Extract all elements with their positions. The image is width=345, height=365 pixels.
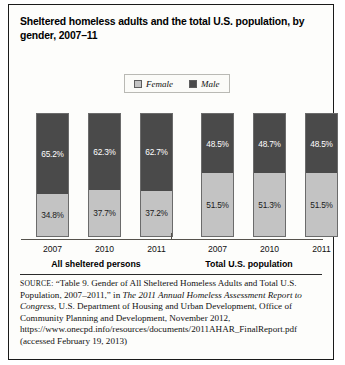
bar-total-u-s-population-2011: 48.5%51.5% (305, 113, 338, 237)
bar-value-male: 62.3% (93, 147, 116, 157)
x-axis-label-2011-left: 2011 (137, 244, 177, 254)
bar-value-female: 37.2% (145, 208, 168, 218)
bar-value-female: 51.3% (258, 200, 281, 210)
source-note: SOURCE: “Table 9. Gender of All Sheltere… (20, 278, 326, 348)
bar-segment-male: 65.2% (37, 114, 68, 194)
bar-all-sheltered-persons-2010: 62.3%37.7% (88, 113, 121, 237)
bar-value-female: 37.7% (93, 208, 116, 218)
bar-total-u-s-population-2010: 48.7%51.3% (253, 113, 286, 237)
bar-value-male: 48.5% (310, 139, 333, 149)
legend-swatch-male-icon (189, 80, 197, 88)
group-separator-tick (171, 233, 172, 240)
plot-area: 65.2%34.8%62.3%37.7%62.7%37.2%48.5%51.5%… (21, 109, 323, 240)
bar-value-male: 48.5% (206, 139, 229, 149)
bar-segment-male: 48.5% (306, 114, 337, 173)
bar-value-male: 48.7% (258, 139, 281, 149)
bar-segment-female: 51.5% (202, 173, 233, 236)
legend-label-male: Male (201, 79, 220, 89)
bar-segment-female: 37.2% (141, 191, 172, 236)
source-label: SOURCE: (20, 279, 53, 288)
source-text-part2: , U.S. Department of Housing and Urban D… (20, 301, 297, 346)
group-label-total-us-population: Total U.S. population (169, 259, 329, 269)
bar-segment-male: 62.7% (141, 114, 172, 191)
bar-all-sheltered-persons-2011: 62.7%37.2% (140, 113, 173, 237)
x-axis-line (21, 239, 323, 240)
group-label-all-sheltered-persons: All sheltered persons (16, 259, 176, 269)
bar-all-sheltered-persons-2007: 65.2%34.8% (36, 113, 69, 237)
x-axis-label-2010-right: 2010 (250, 244, 290, 254)
bar-segment-female: 34.8% (37, 194, 68, 236)
bar-segment-female: 37.7% (89, 190, 120, 236)
bar-segment-male: 48.7% (254, 114, 285, 173)
x-axis-label-2007-left: 2007 (33, 244, 73, 254)
bar-segment-female: 51.3% (254, 173, 285, 236)
x-axis-label-2007-right: 2007 (198, 244, 238, 254)
bar-value-female: 51.5% (206, 200, 229, 210)
x-axis-label-2010-left: 2010 (85, 244, 125, 254)
bar-total-u-s-population-2007: 48.5%51.5% (201, 113, 234, 237)
bar-value-female: 51.5% (310, 200, 333, 210)
bar-segment-male: 48.5% (202, 114, 233, 173)
bar-value-male: 65.2% (41, 149, 64, 159)
figure-container: Sheltered homeless adults and the total … (8, 4, 334, 360)
legend-item-female: Female (134, 79, 173, 89)
x-axis-label-2011-right: 2011 (302, 244, 342, 254)
bar-value-male: 62.7% (145, 147, 168, 157)
section-divider (20, 274, 322, 275)
bar-segment-male: 62.3% (89, 114, 120, 190)
bar-segment-female: 51.5% (306, 173, 337, 236)
chart-legend: Female Male (124, 74, 230, 93)
bar-value-female: 34.8% (41, 210, 64, 220)
legend-label-female: Female (146, 79, 173, 89)
legend-swatch-female-icon (134, 80, 142, 88)
legend-item-male: Male (189, 79, 220, 89)
figure-title: Sheltered homeless adults and the total … (20, 15, 320, 42)
